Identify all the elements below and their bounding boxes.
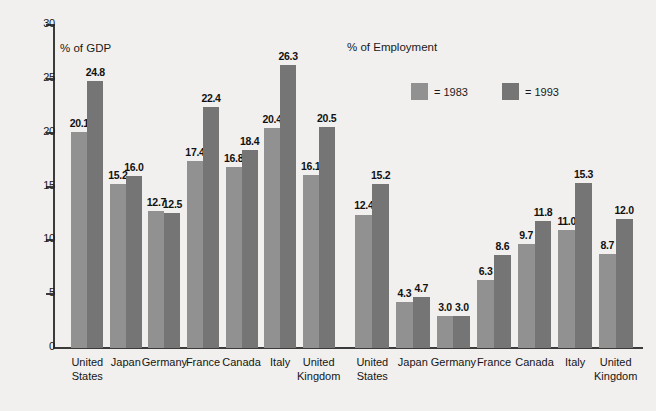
bar-value-label: 24.8 — [82, 66, 108, 78]
bar-value-label: 15.2 — [368, 169, 394, 181]
bar-employment-canada-1983 — [518, 244, 535, 348]
y-tick-15: 15 — [0, 186, 55, 188]
bar-gdp-japan-1983 — [110, 184, 126, 348]
bar-employment-united-kingdom-1993 — [616, 219, 633, 348]
y-tick-label: 30 — [25, 17, 55, 29]
y-tick-label: 10 — [25, 232, 55, 244]
y-tick-10: 10 — [0, 239, 55, 241]
bar-employment-japan-1983 — [396, 302, 413, 348]
bar-employment-united-kingdom-1983 — [599, 254, 616, 348]
y-tick-label: 25 — [25, 71, 55, 83]
bar-gdp-united-states-1993 — [87, 81, 103, 348]
bar-employment-germany-1993 — [453, 316, 470, 348]
y-tick-30: 30 — [0, 24, 55, 26]
y-tick-0: 0 — [0, 347, 55, 349]
bar-value-label: 22.4 — [198, 92, 224, 104]
chart-figure: 051015202530 % of GDP % of Employment = … — [0, 0, 656, 411]
bar-gdp-italy-1993 — [280, 65, 296, 348]
y-tick-5: 5 — [0, 293, 55, 295]
category-label-line: United — [586, 355, 646, 369]
bar-gdp-france-1983 — [187, 161, 203, 348]
plot-area-employment: 12.415.24.34.73.03.06.38.69.711.811.015.… — [352, 24, 636, 348]
bar-gdp-canada-1983 — [226, 167, 242, 348]
bar-gdp-canada-1993 — [242, 150, 258, 348]
bar-value-label: 12.5 — [159, 198, 185, 210]
bar-value-label: 4.7 — [408, 282, 434, 294]
bar-employment-canada-1993 — [535, 221, 552, 348]
bar-gdp-united-states-1983 — [71, 132, 87, 348]
bar-value-label: 12.0 — [611, 204, 637, 216]
bar-value-label: 18.4 — [237, 135, 263, 147]
bar-value-label: 11.8 — [530, 206, 556, 218]
y-tick-label: 15 — [25, 179, 55, 191]
bar-value-label: 26.3 — [275, 50, 301, 62]
y-tick-25: 25 — [0, 78, 55, 80]
bar-employment-united-states-1993 — [372, 184, 389, 348]
bar-value-label: 20.5 — [314, 112, 340, 124]
bar-employment-germany-1983 — [437, 316, 454, 348]
bar-gdp-italy-1983 — [264, 128, 280, 348]
bar-gdp-japan-1993 — [126, 176, 142, 348]
bar-employment-united-states-1983 — [355, 215, 372, 349]
bar-gdp-united-kingdom-1993 — [319, 127, 335, 348]
category-label-line: States — [342, 369, 402, 383]
bar-gdp-germany-1983 — [148, 211, 164, 348]
bar-value-label: 16.0 — [121, 161, 147, 173]
bar-gdp-france-1993 — [203, 107, 219, 348]
bar-employment-france-1993 — [494, 255, 511, 348]
y-tick-label: 20 — [25, 125, 55, 137]
y-tick-20: 20 — [0, 132, 55, 134]
y-tick-label: 0 — [25, 340, 55, 352]
bar-employment-france-1983 — [477, 280, 494, 348]
bar-employment-italy-1993 — [575, 183, 592, 348]
y-tick-label: 5 — [25, 286, 55, 298]
bar-gdp-germany-1993 — [164, 213, 180, 348]
category-label-line: Kingdom — [586, 369, 646, 383]
category-label-line: United — [289, 355, 349, 369]
bar-value-label: 15.3 — [571, 168, 597, 180]
bar-employment-japan-1993 — [413, 297, 430, 348]
category-label-line: Kingdom — [289, 369, 349, 383]
bar-value-label: 3.0 — [449, 301, 475, 313]
category-label-line: States — [57, 369, 117, 383]
plot-area-gdp: 20.124.815.216.012.712.517.422.416.818.4… — [68, 24, 338, 348]
bar-employment-italy-1983 — [558, 230, 575, 348]
bar-gdp-united-kingdom-1983 — [303, 175, 319, 348]
category-label-gdp-united-kingdom: UnitedKingdom — [289, 355, 349, 383]
bar-value-label: 8.6 — [489, 240, 515, 252]
category-label-employment-united-kingdom: UnitedKingdom — [586, 355, 646, 383]
